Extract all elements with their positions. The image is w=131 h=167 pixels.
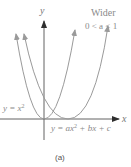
general-parabola-label: y = ax2 + bx + c [51,123,111,133]
x-axis-label: x [122,114,126,124]
figure-caption: (a) [55,153,65,163]
general-parabola-label-suffix: + bx + c [77,123,111,133]
general-parabola-label-text: y = ax [51,123,74,133]
wider-annotation-condition: 0 < a < 1 [85,21,117,31]
wider-annotation-title: Wider [91,8,116,18]
curve-wider-parabola-left [24,34,68,119]
y-axis-label: y [40,6,44,16]
standard-parabola-label: y = x2 [3,103,25,113]
standard-parabola-label-text: y = x [3,103,22,113]
standard-parabola-exponent: 2 [22,103,25,109]
parabola-figure: y x Wider 0 < a < 1 y = x2 y = ax2 + bx … [0,0,131,167]
curve-wider-parabola-right [68,26,108,119]
